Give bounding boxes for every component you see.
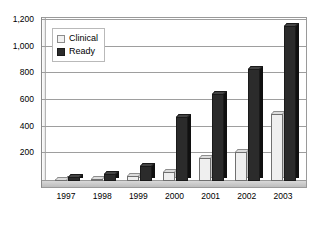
ready-swatch-icon [57, 48, 65, 56]
bar-clinical-1997 [55, 180, 67, 182]
bar-clinical-2000 [163, 172, 175, 181]
bar-ready-2003 [284, 26, 296, 181]
bar-ready-1997 [68, 177, 80, 181]
bar-top [68, 174, 83, 177]
bar-face [140, 166, 152, 181]
bar-side [296, 23, 299, 178]
legend-label-ready: Ready [69, 47, 95, 56]
bar-face [235, 152, 247, 181]
y-tick-label: 200 [20, 148, 34, 157]
x-tick-label: 1997 [57, 192, 76, 201]
x-tick-label: 1998 [93, 192, 112, 201]
plot-area: Clinical Ready [41, 17, 307, 188]
bar-clinical-2002 [235, 152, 247, 181]
bar-ready-1998 [104, 174, 116, 181]
bar-face [176, 117, 188, 181]
y-tick-label: 400 [20, 121, 34, 130]
bar-ready-1999 [140, 166, 152, 181]
x-tick-label: 2000 [165, 192, 184, 201]
bar-ready-2002 [248, 69, 260, 181]
bar-face [68, 177, 80, 181]
bar-side [224, 91, 227, 178]
x-tick-label: 2003 [273, 192, 292, 201]
legend-item-ready: Ready [57, 45, 98, 58]
y-tick-label: 600 [20, 95, 34, 104]
legend-label-clinical: Clinical [69, 34, 98, 43]
x-axis-tick-labels: 1997199819992000200120022003 [41, 192, 307, 206]
bar-face [271, 114, 283, 181]
x-tick-label: 2001 [201, 192, 220, 201]
x-tick-label: 1999 [129, 192, 148, 201]
y-tick-label: 1,200 [13, 15, 34, 24]
bar-clinical-2003 [271, 114, 283, 181]
y-tick-label: 800 [20, 68, 34, 77]
bar-ready-2001 [212, 94, 224, 181]
bar-clinical-1998 [91, 179, 103, 181]
legend-item-clinical: Clinical [57, 32, 98, 45]
y-axis-tick-labels: 2004006008001,0001,200 [0, 0, 38, 225]
clinical-swatch-icon [57, 35, 65, 43]
bar-face [284, 26, 296, 181]
bar-clinical-2001 [199, 158, 211, 181]
bar-face [163, 172, 175, 181]
bar-clinical-1999 [127, 176, 139, 181]
bar-side [188, 114, 191, 178]
y-tick-label: 1,000 [13, 41, 34, 50]
bar-face [212, 94, 224, 181]
bar-face [104, 174, 116, 181]
bar-face [91, 179, 103, 181]
bar-face [199, 158, 211, 181]
chart-legend: Clinical Ready [52, 28, 105, 62]
bar-side [260, 66, 263, 178]
bar-ready-2000 [176, 117, 188, 181]
bar-face [248, 69, 260, 181]
bar-face [127, 176, 139, 181]
x-tick-label: 2002 [237, 192, 256, 201]
bar-chart: 2004006008001,0001,200 Clinical Ready 19… [0, 0, 316, 225]
